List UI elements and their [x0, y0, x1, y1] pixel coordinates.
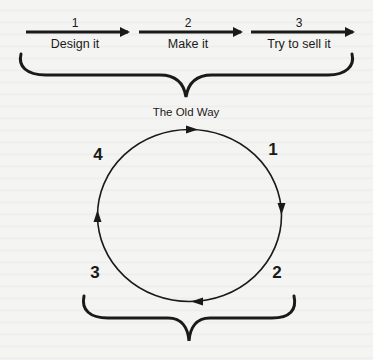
cycle-arrow-bottom — [191, 298, 203, 306]
step-1-number: 1 — [72, 16, 79, 30]
diagram-canvas — [0, 0, 373, 360]
step-1-label: Design it — [51, 37, 100, 51]
cycle-diagram — [94, 126, 286, 306]
cycle-number-2: 2 — [272, 263, 281, 283]
cycle-number-4: 4 — [93, 145, 102, 165]
cycle-arrow-right — [278, 203, 286, 215]
cycle-arrow-top — [186, 126, 198, 134]
old-way-brace — [20, 54, 352, 97]
step-3-number: 3 — [296, 16, 303, 30]
step-2-label: Make it — [168, 37, 208, 51]
cycle-number-3: 3 — [90, 263, 99, 283]
cycle-arrow-left — [94, 210, 102, 222]
cycle-number-1: 1 — [268, 140, 277, 160]
old-way-caption: The Old Way — [153, 106, 220, 118]
step-2-number: 2 — [185, 16, 192, 30]
cycle-brace — [83, 296, 294, 341]
cycle-ring — [98, 130, 282, 302]
step-3-label: Try to sell it — [267, 37, 330, 51]
